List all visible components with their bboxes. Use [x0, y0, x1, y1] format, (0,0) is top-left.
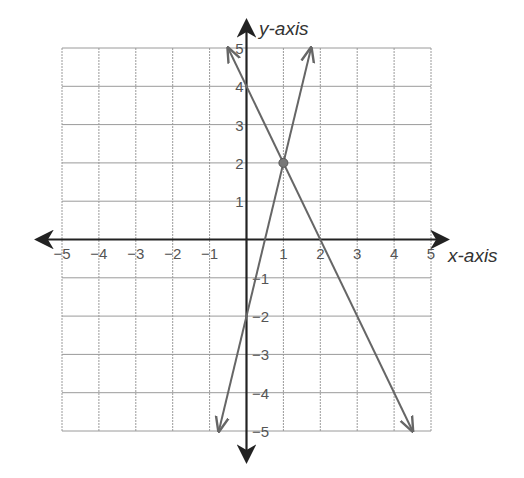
x-axis-label: x-axis: [447, 245, 498, 266]
x-tick-label: −4: [90, 245, 107, 262]
x-tick-label: 3: [353, 245, 361, 262]
y-tick-label: −4: [252, 385, 269, 402]
y-tick-label: 1: [235, 193, 243, 210]
x-tick-label: −3: [127, 245, 144, 262]
y-tick-label: −2: [252, 308, 269, 325]
x-tick-label: 4: [390, 245, 398, 262]
x-tick-label: −2: [164, 245, 181, 262]
x-tick-label: −5: [53, 245, 70, 262]
x-tick-label: 1: [279, 245, 287, 262]
y-axis-label: y-axis: [257, 18, 309, 39]
coordinate-plane: −5−4−3−2−112345−5−4−3−2−112345 x-axis y-…: [0, 0, 524, 478]
y-tick-label: 2: [235, 155, 243, 172]
y-tick-label: 3: [235, 117, 243, 134]
x-tick-label: 5: [427, 245, 435, 262]
x-tick-label: −1: [201, 245, 218, 262]
y-tick-label: −5: [252, 423, 269, 440]
y-tick-label: −3: [252, 346, 269, 363]
intersection-point: [279, 158, 288, 167]
y-tick-label: 4: [235, 78, 243, 95]
y-tick-label: 5: [235, 40, 243, 57]
